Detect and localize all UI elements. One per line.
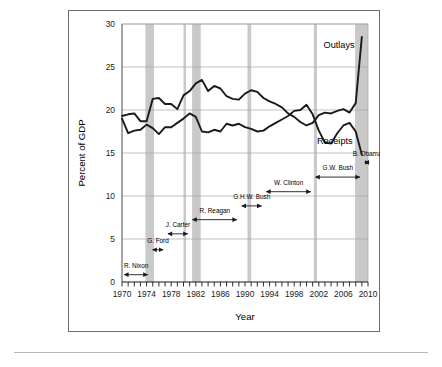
- president-term-label: J. Carter: [166, 221, 191, 228]
- president-term-label: G.W. Bush: [323, 164, 354, 171]
- x-axis-title: Year: [235, 311, 255, 322]
- x-tick-label: 2006: [334, 289, 353, 299]
- y-tick-label: 0: [110, 277, 115, 287]
- gdp-outlays-receipts-chart: 0510152025301970197419781982198619901994…: [68, 10, 380, 332]
- chart-frame: 0510152025301970197419781982198619901994…: [68, 10, 380, 332]
- x-tick-labels: 1970197419781982198619901994199820022006…: [113, 289, 378, 299]
- x-tick-label: 2010: [359, 289, 378, 299]
- series-label-receipts: Receipts: [317, 136, 353, 146]
- x-ticks: [122, 282, 368, 287]
- y-tick-label: 25: [106, 62, 116, 72]
- president-term-label: B. Obama: [353, 150, 380, 157]
- x-tick-label: 1986: [211, 289, 230, 299]
- y-tick-label: 15: [106, 148, 116, 158]
- figure-container: 0510152025301970197419781982198619901994…: [0, 0, 442, 367]
- x-tick-label: 1982: [186, 289, 205, 299]
- x-tick-label: 1974: [137, 289, 156, 299]
- president-terms: R. NixonG. FordJ. CarterR. ReaganG.H.W. …: [124, 150, 380, 275]
- y-tick-label: 10: [106, 191, 116, 201]
- footer-divider: [14, 352, 428, 353]
- y-gridlines: 051015202530: [106, 19, 368, 287]
- x-tick-label: 1994: [260, 289, 279, 299]
- president-term-label: W. Clinton: [274, 179, 304, 186]
- president-term-label: R. Nixon: [124, 262, 149, 269]
- series-label-outlays: Outlays: [324, 40, 356, 50]
- data-series: OutlaysReceipts: [122, 37, 362, 155]
- y-tick-label: 20: [106, 105, 116, 115]
- y-axis-title: Percent of GDP: [76, 119, 87, 186]
- y-tick-label: 30: [106, 19, 116, 29]
- x-tick-label: 1970: [113, 289, 132, 299]
- president-term-label: G. Ford: [147, 237, 169, 244]
- president-term-label: G.H.W. Bush: [233, 193, 270, 200]
- president-term-label: R. Reagan: [200, 207, 231, 215]
- x-tick-label: 2002: [309, 289, 328, 299]
- y-tick-label: 5: [110, 234, 115, 244]
- x-tick-label: 1978: [162, 289, 181, 299]
- x-tick-label: 1990: [236, 289, 255, 299]
- x-tick-label: 1998: [285, 289, 304, 299]
- series-line-outlays: [122, 37, 362, 126]
